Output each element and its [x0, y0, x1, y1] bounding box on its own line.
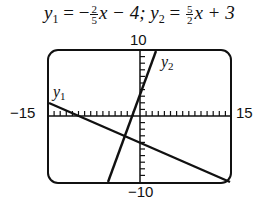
- graph-screen: [0, 0, 264, 203]
- y1-curve-label: y1: [53, 83, 66, 102]
- y1-curve-subscript: 1: [60, 90, 66, 102]
- y2-curve-subscript: 2: [168, 60, 174, 72]
- y2-curve-label: y2: [161, 53, 174, 72]
